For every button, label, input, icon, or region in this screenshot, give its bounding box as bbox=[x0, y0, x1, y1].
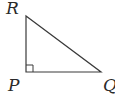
right-angle-marker bbox=[26, 65, 33, 72]
triangle-pqr bbox=[26, 16, 101, 72]
triangle-diagram: R P Q bbox=[0, 0, 115, 98]
vertex-label-r: R bbox=[5, 0, 19, 18]
vertex-label-p: P bbox=[7, 75, 20, 95]
vertex-label-q: Q bbox=[103, 75, 115, 95]
